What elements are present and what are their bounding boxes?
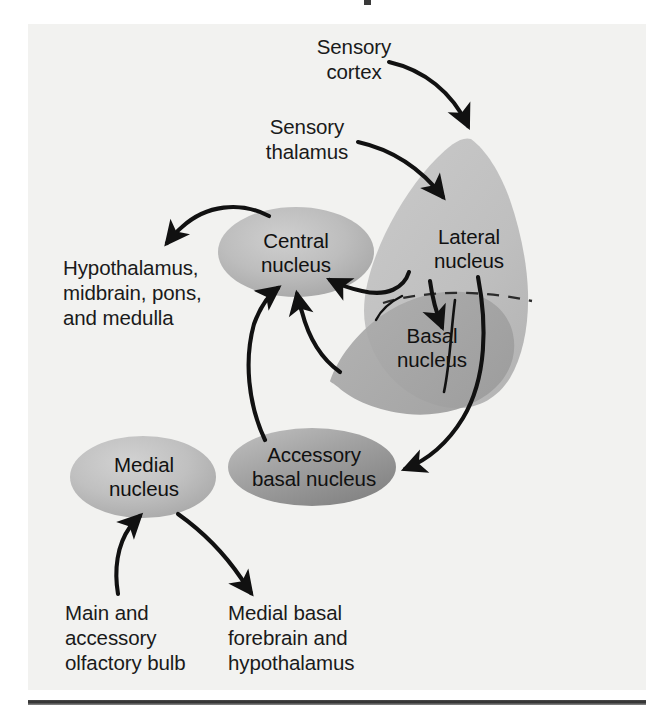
label-sensory-thalamus: Sensory thalamus [236,114,378,164]
label-medial-nucleus: Medial nucleus [78,453,210,501]
arrow-olfactory-bulb-to-medial [116,516,140,594]
label-olfactory-bulb: Main and accessory olfactory bulb [65,600,233,675]
label-sensory-cortex: Sensory cortex [289,34,419,84]
bottom-divider-rule [28,700,646,705]
label-basal-nucleus: Basal nucleus [370,324,494,372]
figure-root: Sensory cortex Sensory thalamus Hypothal… [0,0,661,721]
arrow-medial-to-forebrain-targets [178,514,251,593]
label-central-nucleus: Central nucleus [226,229,366,277]
label-accessory-basal-nucleus: Accessory basal nucleus [226,443,402,491]
label-forebrain-targets: Medial basal forebrain and hypothalamus [228,600,418,675]
label-lateral-nucleus: Lateral nucleus [404,225,534,273]
arrow-basal-to-central [297,294,340,372]
